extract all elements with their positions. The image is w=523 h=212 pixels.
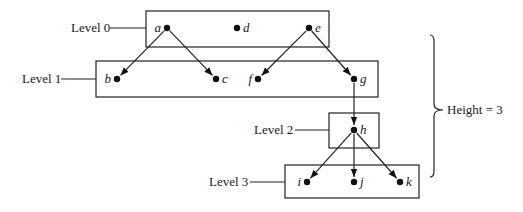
node-dot-icon [255,76,261,82]
edge-h-k [357,133,397,178]
edge-a-b [121,31,165,76]
edges-layer [121,31,397,178]
level-3-label: Level 3 [209,174,248,189]
node-label-h: h [360,122,367,137]
node-dot-icon [351,127,357,133]
node-label-d: d [243,20,250,35]
node-b: b [105,71,121,86]
node-label-a: a [155,20,162,35]
node-k: k [397,174,412,189]
node-label-f: f [248,71,254,86]
node-dot-icon [114,76,120,82]
node-f: f [248,71,261,86]
edge-e-f [262,31,307,76]
node-dot-icon [351,179,357,185]
node-label-k: k [406,174,412,189]
level-1-label: Level 1 [22,71,61,86]
edge-e-g [312,31,351,75]
node-label-j: j [358,174,364,189]
node-j: j [351,174,364,189]
node-d: d [234,20,250,35]
node-dot-icon [304,179,310,185]
node-dot-icon [234,25,240,31]
level-0-label: Level 0 [71,20,110,35]
level-1-group: Level 1 [22,61,378,97]
node-label-b: b [105,71,112,86]
height-brace: Height = 3 [430,35,503,177]
height-label: Height = 3 [447,102,503,117]
node-label-c: c [222,71,228,86]
curly-brace-icon [430,35,443,177]
edge-h-i [310,133,351,178]
level-diagram: Level 0Level 1Level 2Level 3 adebcfghijk… [0,0,523,212]
level-0-group: Level 0 [71,11,329,47]
level-3-group: Level 3 [209,165,419,198]
node-label-i: i [297,174,301,189]
edge-a-c [170,31,213,76]
node-label-g: g [360,71,367,86]
node-g: g [351,71,367,86]
node-dot-icon [213,76,219,82]
node-dot-icon [397,179,403,185]
node-dot-icon [164,25,170,31]
level-1-box [96,61,378,97]
level-2-label: Level 2 [254,122,293,137]
node-i: i [297,174,310,189]
node-dot-icon [351,76,357,82]
node-c: c [213,71,228,86]
node-dot-icon [306,25,312,31]
levels-layer: Level 0Level 1Level 2Level 3 [22,11,419,198]
node-label-e: e [315,20,321,35]
